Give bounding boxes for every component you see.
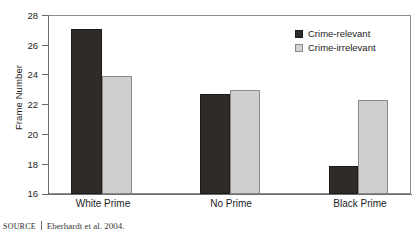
- x-tick-label-no-prime: No Prime: [171, 198, 291, 210]
- legend-swatch-dark-icon: [295, 30, 303, 38]
- y-tick-label-20: 20: [16, 130, 38, 140]
- y-tick-label-22: 22: [16, 100, 38, 110]
- legend-label-crime-irrelevant: Crime-irrelevant: [308, 41, 376, 55]
- bar-chart-figure: Frame Number 28 26 24 22 20 18 16 White …: [0, 0, 419, 238]
- legend-item-crime-irrelevant[interactable]: Crime-irrelevant: [295, 41, 376, 55]
- y-tick-label-28: 28: [16, 11, 38, 21]
- bar-no-prime-crime-irrelevant[interactable]: [230, 90, 260, 194]
- bar-black-prime-crime-relevant[interactable]: [329, 166, 358, 194]
- y-tick-label-16: 16: [16, 189, 38, 199]
- source-note: Source Eberhardt et al. 2004.: [3, 220, 125, 232]
- bar-black-prime-crime-irrelevant[interactable]: [358, 100, 388, 194]
- source-citation: Eberhardt et al. 2004.: [47, 221, 125, 232]
- bar-white-prime-crime-relevant[interactable]: [71, 29, 102, 194]
- y-tick-label-26: 26: [16, 41, 38, 51]
- y-axis-title: Frame Number: [13, 38, 24, 158]
- x-axis-line: [48, 194, 412, 195]
- legend-swatch-light-icon: [295, 44, 303, 52]
- source-divider: [41, 221, 42, 230]
- chart-legend: Crime-relevant Crime-irrelevant: [295, 27, 376, 55]
- legend-item-crime-relevant[interactable]: Crime-relevant: [295, 27, 376, 41]
- y-tick-label-24: 24: [16, 70, 38, 80]
- x-tick-label-black-prime: Black Prime: [300, 198, 419, 210]
- source-label: Source: [3, 221, 36, 232]
- y-axis-line: [48, 15, 49, 195]
- y-tick-label-18: 18: [16, 160, 38, 170]
- legend-label-crime-relevant: Crime-relevant: [308, 27, 370, 41]
- x-tick-label-white-prime: White Prime: [43, 198, 163, 210]
- bar-no-prime-crime-relevant[interactable]: [200, 94, 230, 194]
- bar-white-prime-crime-irrelevant[interactable]: [102, 76, 132, 194]
